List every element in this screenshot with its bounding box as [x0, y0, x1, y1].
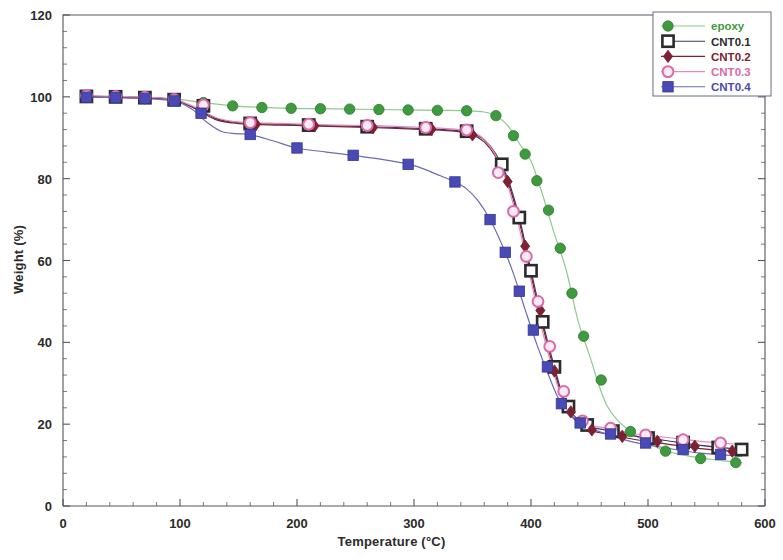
marker-circle-filled — [461, 106, 471, 116]
marker-circle-filled — [315, 103, 325, 113]
data-point — [500, 247, 510, 257]
data-point — [715, 438, 726, 449]
data-point — [227, 101, 237, 111]
data-point — [292, 143, 302, 153]
legend-label: epoxy — [711, 20, 745, 32]
marker-circle-open — [678, 434, 689, 445]
markers-cnt0-2 — [82, 91, 737, 458]
legend-marker — [662, 36, 673, 47]
x-axis-title: Temperature (°C) — [0, 534, 783, 549]
data-point — [348, 150, 358, 160]
y-tick-label: 0 — [45, 499, 52, 514]
data-point — [286, 103, 296, 113]
data-point — [508, 206, 519, 217]
data-point — [678, 444, 688, 454]
x-tick-label: 300 — [403, 516, 425, 531]
series-line — [86, 96, 741, 449]
x-tick-label: 400 — [520, 516, 542, 531]
marker-square-filled — [500, 247, 510, 257]
legend-marker — [663, 82, 673, 92]
series-cnt0-3 — [86, 96, 741, 445]
y-tick-label: 100 — [30, 90, 52, 105]
marker-circle-open — [493, 167, 504, 178]
data-point — [715, 449, 725, 459]
y-tick-label: 120 — [30, 8, 52, 23]
data-point — [508, 131, 518, 141]
marker-square-filled — [450, 177, 460, 187]
series-cnt0-4 — [86, 97, 741, 456]
marker-circle-filled — [286, 103, 296, 113]
marker-square-filled — [81, 92, 91, 102]
y-tick-label: 80 — [38, 172, 52, 187]
data-point — [605, 429, 615, 439]
markers-cnt0-3 — [81, 90, 726, 448]
legend-label: CNT0.3 — [711, 66, 751, 78]
marker-circle-open — [362, 120, 373, 131]
series-layer — [81, 90, 747, 468]
data-point — [567, 288, 577, 298]
data-point — [110, 92, 120, 102]
data-point — [640, 438, 650, 448]
data-point — [461, 106, 471, 116]
legend-marker — [663, 21, 673, 31]
legend-label: CNT0.1 — [711, 36, 751, 48]
x-tick-label: 500 — [637, 516, 659, 531]
marker-circle-filled — [625, 426, 635, 436]
marker-circle-open — [521, 251, 532, 262]
marker-square-filled — [169, 96, 179, 106]
legend-label: CNT0.4 — [711, 81, 751, 93]
data-point — [450, 177, 460, 187]
chart-plot-area: 0204060801001200100200300400500600epoxyC… — [0, 0, 783, 560]
marker-square-filled — [245, 129, 255, 139]
marker-square-filled — [348, 150, 358, 160]
data-point — [690, 440, 699, 452]
marker-square-filled — [678, 444, 688, 454]
series-line — [86, 97, 741, 456]
marker-circle-open — [420, 122, 431, 133]
data-point — [403, 105, 413, 115]
data-point — [525, 265, 536, 276]
tga-chart-figure: 0204060801001200100200300400500600epoxyC… — [0, 0, 783, 560]
y-tick-label: 20 — [38, 417, 52, 432]
marker-circle-filled — [257, 102, 267, 112]
y-tick-label: 40 — [38, 335, 52, 350]
marker-circle-open — [544, 341, 555, 352]
marker-circle-open — [715, 438, 726, 449]
data-point — [196, 108, 206, 118]
marker-square-filled — [292, 143, 302, 153]
data-point — [461, 125, 472, 136]
series-line — [86, 96, 741, 463]
marker-square-filled — [556, 399, 566, 409]
data-point — [542, 362, 552, 372]
marker-circle-filled — [660, 446, 670, 456]
marker-circle-open — [245, 117, 256, 128]
x-tick-label: 100 — [169, 516, 191, 531]
data-point — [315, 103, 325, 113]
marker-square-filled — [528, 325, 538, 335]
data-point — [169, 96, 179, 106]
data-point — [736, 444, 747, 455]
marker-circle-filled — [508, 131, 518, 141]
y-axis-title: Weight (%) — [11, 190, 26, 330]
series-cnt0-1 — [86, 96, 741, 449]
data-point — [596, 375, 606, 385]
data-point — [344, 104, 354, 114]
legend-label: CNT0.2 — [711, 51, 751, 63]
marker-square-open — [736, 444, 747, 455]
series-line — [86, 97, 741, 452]
data-point — [532, 176, 542, 186]
series-cnt0-2 — [86, 97, 741, 452]
marker-circle-filled — [432, 105, 442, 115]
data-point — [555, 243, 565, 253]
data-point — [578, 331, 588, 341]
x-tick-label: 0 — [59, 516, 66, 531]
marker-square-filled — [140, 93, 150, 103]
marker-square-filled — [715, 449, 725, 459]
data-point — [303, 119, 314, 130]
data-point — [625, 426, 635, 436]
marker-circle-filled — [491, 110, 501, 120]
marker-square-filled — [196, 108, 206, 118]
marker-circle-filled — [731, 457, 741, 467]
marker-circle-open — [303, 119, 314, 130]
data-point — [575, 418, 585, 428]
